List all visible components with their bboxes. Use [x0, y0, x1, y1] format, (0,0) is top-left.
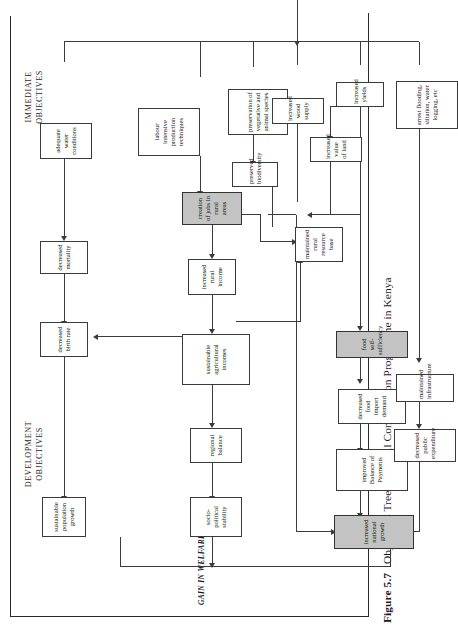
- node-label: decreased mortality: [56, 244, 72, 271]
- edge-welfare-trunk-upper: [120, 566, 218, 567]
- edge-programme-input: [297, 0, 298, 42]
- node-increased-national-growth[interactable]: increased national growth: [334, 515, 414, 549]
- node-label: regional balance: [208, 431, 224, 460]
- column-heading-development-line1: DEVELOPMENT: [24, 399, 35, 509]
- edge-trunk-to-water: [64, 42, 65, 62]
- arrowhead-import-demand: [357, 379, 363, 384]
- node-labour-intensive-production[interactable]: labour intensive production techniques: [138, 108, 200, 156]
- edge-resourcebase-to-jobs-h: [260, 214, 261, 242]
- node-preserved-biodiversity[interactable]: preserved biodiversity: [232, 162, 278, 187]
- node-label: arrest flooding, siltation, water loggin…: [415, 84, 439, 126]
- node-regional-balance[interactable]: regional balance: [190, 428, 242, 463]
- node-label: labour intensive production techniques: [153, 111, 185, 153]
- edge-population-to-trunk: [120, 537, 121, 567]
- node-label: preserved biodiversity: [247, 165, 263, 184]
- arrowhead-resource-base-bottom: [307, 212, 312, 218]
- node-label: increased wood supply: [286, 101, 310, 121]
- node-adequate-water-conditions[interactable]: adequate water conditions: [40, 123, 92, 159]
- edge-resourcebase-to-jobs-v2: [260, 241, 295, 242]
- figure-number: Figure 5.7: [381, 573, 393, 623]
- edge-resourcebase-to-growth-v: [296, 531, 334, 532]
- node-label: food self-sufficiency: [360, 334, 384, 355]
- node-label: creation of jobs in rural areas: [196, 195, 228, 222]
- edge-trunk-to-yields: [360, 42, 361, 65]
- node-label: socio-political stability: [204, 500, 228, 534]
- node-decreased-mortality[interactable]: decreased mortality: [40, 241, 88, 274]
- node-increased-yields[interactable]: increased yields: [336, 82, 384, 107]
- edge-bop-to-nationalgrowth: [360, 491, 361, 514]
- node-label: improved Balance of Payments: [360, 452, 384, 488]
- column-heading-immediate-line1: IMMEDIATE: [24, 42, 35, 152]
- node-increased-rural-income[interactable]: increased rural income: [188, 259, 236, 295]
- node-label: increased value of land: [324, 140, 348, 159]
- edge-trunk-to-labour: [200, 42, 201, 77]
- node-label: sustainable agricultural incomes: [204, 337, 228, 382]
- arrowhead-infrastructure: [416, 358, 422, 363]
- node-label: adequate water conditions: [54, 126, 78, 156]
- edge-expenditure-to-growth-h: [419, 462, 420, 532]
- edge-inputs-trunk: [64, 41, 419, 42]
- edge-rural-income-to-birthrate: [98, 336, 195, 337]
- edge-foodself-to-importdemand: [360, 358, 361, 380]
- edge-importdemand-to-bop: [360, 424, 361, 449]
- node-maintained-infrastructure[interactable]: maintained infrastructure: [396, 374, 454, 402]
- edge-birthrate-to-population: [64, 357, 65, 497]
- edge-agri-to-regional: [212, 385, 213, 424]
- node-sustainable-population-growth[interactable]: sustainable population growth: [42, 497, 86, 537]
- node-label: maintained infrastructure: [417, 377, 433, 399]
- edge-trunk-to-flooding: [419, 42, 420, 65]
- node-label: increased rural income: [200, 262, 224, 292]
- arrowhead-programme-input: [294, 41, 300, 46]
- node-food-self-sufficiency[interactable]: food self-sufficiency: [336, 331, 408, 358]
- edge-mortality-to-birthrate: [64, 274, 65, 322]
- node-label: decreased public expenditure: [413, 432, 437, 459]
- edge-rural-income-branch-v: [236, 321, 300, 322]
- node-creation-of-jobs[interactable]: creation of jobs in rural areas: [182, 192, 242, 225]
- node-increased-value-of-land[interactable]: increased value of land: [310, 137, 362, 162]
- edge-wood-to-resourcebase: [297, 124, 298, 202]
- edge-resourcebase-feeder: [330, 214, 360, 215]
- edge-water-to-mortality: [64, 159, 65, 237]
- node-label: maintained rural resource base: [303, 230, 335, 259]
- node-label: decreased birth rate: [56, 325, 72, 354]
- edge-biodiversity-to-resourcebase-h: [272, 187, 273, 227]
- edge-trunk-to-welfare: [212, 537, 213, 563]
- node-label: increased yields: [352, 85, 368, 104]
- arrowhead-birth-rate-bottom: [93, 334, 98, 340]
- node-maintained-rural-resource-base[interactable]: maintained rural resource base: [295, 227, 343, 262]
- edge-valueofland-to-resourcebase-v: [312, 214, 330, 215]
- column-heading-development-line2: OBJECTIVES: [35, 399, 46, 509]
- node-socio-political-stability[interactable]: socio-political stability: [190, 497, 242, 537]
- edge-resourcebase-to-growth-v0: [268, 214, 296, 215]
- node-decreased-birth-rate[interactable]: decreased birth rate: [40, 322, 88, 357]
- node-label: preservation of vegetative and animal sp…: [246, 92, 270, 132]
- edge-jobs-to-rural-income: [212, 225, 213, 255]
- node-arrest-flooding[interactable]: arrest flooding, siltation, water loggin…: [396, 81, 458, 129]
- node-sustainable-agricultural-incomes[interactable]: sustainable agricultural incomes: [182, 334, 250, 385]
- edge-valueofland-to-resourcebase-h: [330, 162, 331, 215]
- edge-rural-income-branch-h: [300, 262, 301, 322]
- edge-regional-to-sociopolitical: [212, 463, 213, 497]
- node-label: decreased food import demand: [356, 392, 388, 421]
- gain-in-welfare-label: GAIN IN WELFARE: [197, 534, 206, 605]
- edge-labour-to-jobs: [200, 156, 201, 192]
- edge-rural-income-to-agri: [212, 295, 213, 330]
- node-label: sustainable population growth: [52, 500, 76, 534]
- node-decreased-public-expenditure[interactable]: decreased public expenditure: [394, 429, 456, 462]
- edge-trunk-to-species: [253, 42, 254, 67]
- edge-yields-to-valueofland: [330, 107, 331, 137]
- edge-welfare-trunk-lower: [212, 566, 390, 567]
- edge-infrastructure-to-expenditure: [419, 402, 420, 425]
- edge-resourcebase-to-growth-h: [296, 215, 297, 532]
- node-increased-wood-supply[interactable]: increased wood supply: [272, 98, 324, 124]
- column-heading-development: DEVELOPMENT OBJECTIVES: [24, 399, 45, 509]
- edge-flooding-to-infrastructure: [419, 129, 420, 359]
- node-label: increased national growth: [362, 518, 386, 546]
- arrowhead-welfare: [209, 563, 215, 568]
